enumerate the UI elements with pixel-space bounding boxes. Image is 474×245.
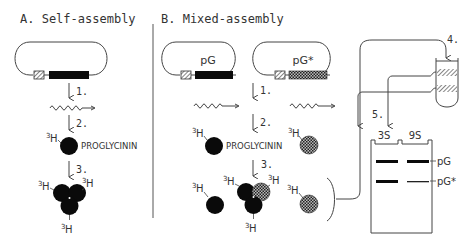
plasmid-pg-label: pG bbox=[200, 54, 216, 67]
panel-b: B. Mixed-assembly pG pG* 1. 2. bbox=[161, 12, 459, 234]
figure-canvas: A. Self-assembly 1. 2. 3 H PROGLYCININ 3… bbox=[0, 0, 474, 245]
svg-text:H: H bbox=[65, 224, 73, 235]
gene-insert-solid bbox=[195, 71, 233, 79]
svg-text:H: H bbox=[50, 133, 58, 144]
tritium-label-trimer-bottom: 3 H bbox=[245, 214, 257, 234]
gradient-band-3s bbox=[437, 85, 457, 92]
proglycinin-monomer bbox=[60, 137, 78, 155]
plasmid-backbone bbox=[15, 42, 107, 75]
mixed-trimer bbox=[237, 183, 270, 214]
mrna-wave-icon bbox=[194, 104, 238, 108]
tritium-label-monomer-pg-star: 3 H bbox=[288, 127, 302, 140]
svg-text:H: H bbox=[196, 128, 204, 139]
lane-label-9s: 9S bbox=[409, 130, 422, 141]
svg-text:H: H bbox=[291, 185, 299, 196]
svg-text:H: H bbox=[227, 176, 235, 187]
tritium-label-monomer: 3 H bbox=[46, 132, 62, 144]
promoter-box bbox=[275, 71, 285, 79]
plasmid-a bbox=[15, 42, 107, 79]
free-monomer-pg-star bbox=[300, 195, 318, 213]
panel-a-title: A. Self-assembly bbox=[20, 12, 136, 26]
step-1-label: 1. bbox=[260, 85, 272, 96]
proglycinin-monomer-pg-star bbox=[300, 136, 318, 154]
step-4-label: 4. bbox=[447, 34, 459, 45]
mrna-wave-icon bbox=[290, 104, 334, 108]
step-1-label: 1. bbox=[76, 86, 88, 97]
tritium-label-monomer-pg: 3 H bbox=[192, 127, 207, 140]
proglycinin-label: PROGLYCININ bbox=[81, 141, 137, 151]
band-pg-9s bbox=[407, 160, 429, 163]
step-2-label: 2. bbox=[76, 118, 88, 129]
tritium-label-free-pg-star: 3 H bbox=[287, 184, 303, 198]
svg-text:H: H bbox=[292, 128, 300, 139]
svg-text:H: H bbox=[86, 178, 94, 189]
gel-label-pg-star: pG* bbox=[437, 176, 456, 187]
tritium-label-bottom: 3 H bbox=[61, 215, 73, 235]
band-pg-star-3s bbox=[376, 180, 398, 183]
lane-label-3s: 3S bbox=[378, 130, 391, 141]
fraction-9s-arrow bbox=[388, 72, 436, 126]
connector-to-gradient bbox=[336, 40, 446, 199]
plasmid-pg-star: pG* bbox=[253, 42, 331, 79]
step-3-label: 3. bbox=[76, 164, 88, 175]
svg-text:H: H bbox=[42, 181, 50, 192]
mixture-bracket bbox=[327, 178, 335, 221]
step-3-label: 3. bbox=[261, 159, 273, 170]
step-2-label: 2. bbox=[260, 117, 272, 128]
mrna-wave-icon bbox=[50, 106, 94, 110]
plasmid-pg-star-label: pG* bbox=[292, 54, 314, 67]
gene-insert-solid bbox=[49, 71, 89, 79]
promoter-box bbox=[34, 71, 44, 79]
proglycinin-monomer-pg bbox=[205, 137, 223, 155]
band-pg-3s bbox=[376, 160, 398, 163]
tritium-label-left: 3 H bbox=[38, 180, 54, 192]
band-pg-star-9s bbox=[407, 181, 429, 182]
gradient-tube bbox=[436, 58, 458, 107]
proglycinin-label: PROGLYCININ bbox=[226, 141, 282, 151]
step-5-label: 5. bbox=[372, 109, 384, 120]
tritium-label-trimer-right: 3 H bbox=[267, 174, 280, 187]
gel-label-pg: pG bbox=[437, 156, 451, 167]
panel-a: A. Self-assembly 1. 2. 3 H PROGLYCININ 3… bbox=[15, 12, 137, 235]
tritium-label-free-pg: 3 H bbox=[192, 182, 208, 197]
gradient-band-9s bbox=[437, 69, 457, 76]
free-monomer-pg bbox=[206, 196, 224, 214]
fraction-3s-arrow bbox=[358, 88, 436, 126]
promoter-box bbox=[181, 71, 191, 79]
tritium-label-trimer-left: 3 H bbox=[223, 175, 239, 187]
svg-text:H: H bbox=[272, 175, 280, 186]
plasmid-pg: pG bbox=[162, 42, 236, 79]
panel-b-title: B. Mixed-assembly bbox=[161, 12, 284, 26]
proglycinin-trimer bbox=[53, 184, 86, 215]
sds-gel: 3S 9S pG pG* bbox=[371, 130, 456, 233]
gene-insert-hatched bbox=[289, 71, 327, 79]
svg-text:H: H bbox=[196, 183, 204, 194]
svg-text:H: H bbox=[249, 223, 257, 234]
